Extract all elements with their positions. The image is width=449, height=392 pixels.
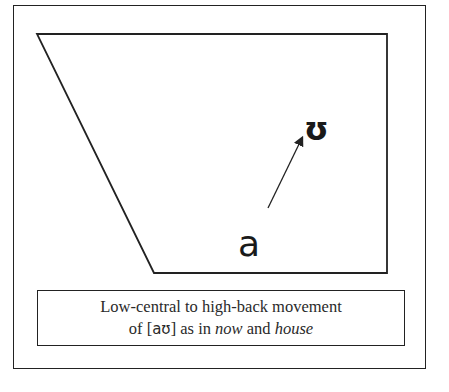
caption-and: and [243,319,275,338]
caption-example-house: house [275,319,314,338]
caption-prefix: of [ [129,319,152,338]
vowel-start-label: a [238,226,260,262]
caption-line-2: of [aʊ] as in now and house [38,318,404,340]
caption-box: Low-central to high-back movement of [aʊ… [37,290,405,346]
movement-arrow [268,138,302,208]
caption-ipa: aʊ [152,320,170,338]
vowel-quadrilateral [37,34,387,273]
caption-line-1: Low-central to high-back movement [38,296,404,318]
caption-middle: ] as in [171,319,215,338]
vowel-end-label: ʊ [304,113,329,145]
caption-example-now: now [215,319,243,338]
